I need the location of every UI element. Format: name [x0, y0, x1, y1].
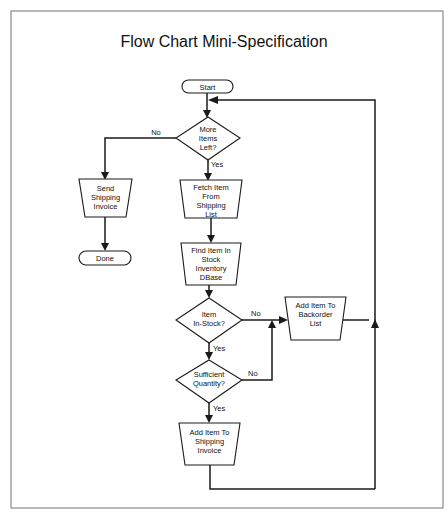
edge-add-invoice-to-loop [210, 465, 375, 489]
svg-text:Add Item To: Add Item To [296, 301, 336, 310]
svg-text:Fetch Item: Fetch Item [193, 183, 228, 192]
label-more-items-yes: Yes [211, 160, 223, 169]
edge-fetch-to-find [207, 218, 215, 243]
node-send-shipping-invoice[interactable]: Send Shipping Invoice [79, 179, 132, 217]
node-start[interactable]: Start [182, 80, 233, 93]
svg-text:Items: Items [199, 134, 218, 143]
svg-text:Left?: Left? [200, 143, 217, 152]
label-in-stock-yes: Yes [213, 344, 225, 353]
edge-sufficient-yes [205, 403, 213, 423]
svg-text:Item: Item [202, 310, 217, 319]
edge-send-to-done [101, 217, 109, 251]
svg-text:In-Stock?: In-Stock? [193, 319, 225, 328]
svg-text:Quantity?: Quantity? [193, 379, 225, 388]
svg-text:Invoice: Invoice [198, 446, 222, 455]
svg-text:From: From [202, 192, 220, 201]
label-in-stock-no: No [251, 309, 261, 318]
diagram-title: Flow Chart Mini-Specification [120, 33, 327, 50]
node-more-items-left[interactable]: More Items Left? [176, 117, 240, 160]
svg-text:Shipping: Shipping [196, 201, 225, 210]
node-item-in-stock[interactable]: Item In-Stock? [176, 298, 242, 343]
svg-text:Inventory: Inventory [196, 264, 227, 273]
flowchart-canvas: Flow Chart Mini-Specification No Yes [0, 0, 448, 514]
edge-start-to-more-items [203, 93, 211, 118]
node-fetch-item[interactable]: Fetch Item From Shipping List [180, 180, 242, 219]
svg-text:More: More [199, 125, 216, 134]
node-sufficient-quantity[interactable]: Sufficient Quantity? [176, 360, 242, 403]
svg-text:Sufficient: Sufficient [194, 370, 226, 379]
label-more-items-no: No [151, 128, 161, 137]
svg-text:Invoice: Invoice [94, 202, 118, 211]
edge-more-items-no [101, 138, 176, 180]
svg-text:Stock: Stock [202, 255, 221, 264]
edge-backorder-to-loop [343, 319, 379, 328]
label-sufficient-yes: Yes [213, 404, 225, 413]
svg-text:Backorder: Backorder [298, 310, 333, 319]
node-add-to-shipping-invoice[interactable]: Add Item To Shipping Invoice [179, 423, 240, 465]
svg-text:List: List [310, 319, 323, 328]
svg-text:Find Item In: Find Item In [191, 246, 231, 255]
svg-text:Send: Send [97, 184, 115, 193]
edge-in-stock-yes [205, 343, 213, 360]
svg-text:DBase: DBase [200, 273, 223, 282]
label-sufficient-no: No [248, 369, 258, 378]
svg-text:Done: Done [96, 254, 114, 263]
svg-text:Shipping: Shipping [91, 193, 120, 202]
svg-text:List: List [205, 210, 218, 219]
svg-text:Shipping: Shipping [195, 437, 224, 446]
node-add-to-backorder[interactable]: Add Item To Backorder List [285, 297, 346, 340]
node-done[interactable]: Done [79, 251, 131, 265]
edge-find-to-in-stock [205, 285, 213, 298]
node-find-item[interactable]: Find Item In Stock Inventory DBase [181, 243, 241, 285]
svg-text:Add Item To: Add Item To [190, 428, 230, 437]
edge-in-stock-no [242, 316, 288, 324]
node-start-label: Start [200, 83, 217, 92]
